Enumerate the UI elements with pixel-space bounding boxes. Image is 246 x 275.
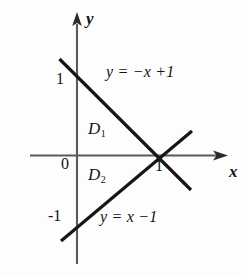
region-d2-subscript: 2 — [101, 174, 106, 185]
region-d2-letter: D — [88, 165, 100, 184]
region-d1-subscript: 1 — [101, 128, 106, 139]
region-label-d2: D2 — [88, 166, 105, 183]
coordinate-plane-figure: y x 1 1 0 -1 D1 D2 y = −x +1 y = x −1 — [0, 0, 246, 275]
tick-label-x-one: 1 — [155, 158, 163, 174]
equation-label-upper-line: y = −x +1 — [106, 64, 174, 80]
x-axis-label: x — [229, 163, 238, 180]
origin-label: 0 — [61, 156, 69, 172]
equation-label-lower-line: y = x −1 — [100, 209, 157, 225]
region-d1-letter: D — [88, 119, 100, 138]
tick-label-y-one: 1 — [56, 71, 64, 87]
figure-canvas — [0, 0, 246, 275]
y-axis-arrowhead — [72, 12, 82, 26]
y-axis-label: y — [86, 10, 94, 27]
tick-label-y-negative-one: -1 — [48, 208, 61, 224]
region-label-d1: D1 — [88, 120, 105, 137]
